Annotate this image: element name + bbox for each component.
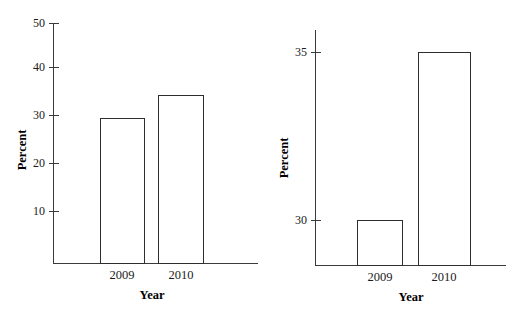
- right-bar-2009: [358, 221, 403, 266]
- left-bar-2009: [101, 119, 145, 264]
- left-ytick-label-20: 20: [33, 156, 45, 170]
- right-category-label-2009: 2009: [368, 270, 393, 284]
- figure-container: 50 40 30 20 10 2009 2010 Year Percent: [0, 0, 520, 314]
- left-ytick-label-30: 30: [33, 108, 45, 122]
- right-category-label-2010: 2010: [432, 270, 457, 284]
- left-x-axis-title: Year: [140, 288, 165, 302]
- left-category-label-2009: 2009: [110, 268, 135, 282]
- right-ytick-label-30: 30: [295, 213, 307, 227]
- left-bar-2010: [159, 96, 204, 264]
- right-x-axis-title: Year: [399, 290, 424, 304]
- left-chart-panel: 50 40 30 20 10 2009 2010 Year Percent: [15, 16, 258, 302]
- left-ytick-label-10: 10: [33, 204, 45, 218]
- left-ytick-label-40: 40: [33, 60, 45, 74]
- right-bar-2010: [419, 53, 471, 266]
- right-y-axis-title: Percent: [277, 137, 291, 179]
- left-ytick-label-50: 50: [33, 16, 45, 30]
- bar-charts-svg: 50 40 30 20 10 2009 2010 Year Percent: [0, 0, 520, 314]
- left-y-axis-title: Percent: [15, 129, 29, 171]
- right-chart-panel: 35 30 2009 2010 Year Percent: [277, 30, 506, 304]
- left-category-label-2010: 2010: [169, 268, 194, 282]
- right-ytick-label-35: 35: [295, 45, 307, 59]
